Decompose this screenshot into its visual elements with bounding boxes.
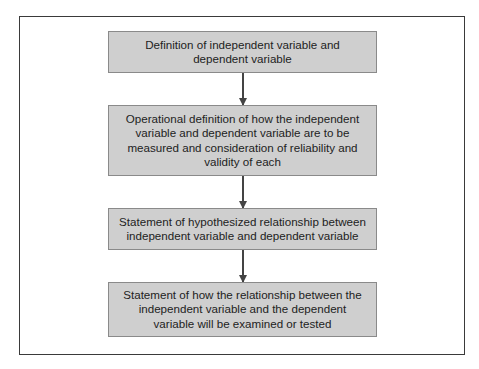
step-1-box: Definition of independent variable and d… <box>108 31 377 73</box>
arrow-down-icon <box>242 250 244 282</box>
step-4-box: Statement of how the relationship betwee… <box>108 282 377 337</box>
step-2-label: Operational definition of how the indepe… <box>117 112 368 170</box>
arrow-down-icon <box>242 73 244 105</box>
step-3-label: Statement of hypothesized relationship b… <box>117 215 368 244</box>
arrow-down-icon <box>242 176 244 208</box>
step-4-label: Statement of how the relationship betwee… <box>117 288 368 331</box>
step-3-box: Statement of hypothesized relationship b… <box>108 208 377 250</box>
step-2-box: Operational definition of how the indepe… <box>108 105 377 176</box>
step-1-label: Definition of independent variable and d… <box>117 38 368 67</box>
